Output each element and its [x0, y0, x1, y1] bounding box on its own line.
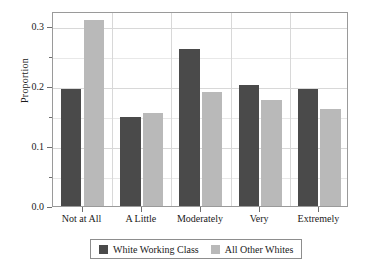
x-axis-tick-mark: [318, 207, 319, 212]
legend-label: All Other Whites: [225, 244, 294, 255]
x-axis-tick-mark: [259, 207, 260, 212]
bar-group: [231, 13, 290, 206]
y-axis-tick-label: 0.0: [4, 202, 44, 212]
y-axis-title: Proportion: [19, 21, 30, 141]
legend-entry: White Working Class: [99, 244, 199, 255]
x-axis-tick-mark: [141, 207, 142, 212]
legend-swatch-icon: [99, 245, 108, 254]
bar: [143, 113, 163, 206]
bar: [202, 92, 222, 206]
legend-label: White Working Class: [113, 244, 199, 255]
bar-group: [112, 13, 171, 206]
bar: [298, 89, 318, 206]
bar: [179, 49, 199, 206]
legend-swatch-icon: [211, 245, 220, 254]
y-axis-tick-label: 0.3: [4, 22, 44, 32]
bar: [261, 100, 281, 206]
x-axis-tick-mark: [82, 207, 83, 212]
bar-group: [290, 13, 349, 206]
plot-inner: [53, 13, 347, 206]
bar-group: [171, 13, 230, 206]
chart-legend: White Working ClassAll Other Whites: [90, 239, 302, 259]
bar: [120, 117, 140, 206]
y-axis-tick-label: 0.1: [4, 142, 44, 152]
legend-entry: All Other Whites: [211, 244, 294, 255]
x-axis-tick-mark: [200, 207, 201, 212]
bar-chart-figure: Proportion 0.00.10.20.3 Not at AllA Litt…: [0, 0, 372, 275]
bar: [239, 85, 259, 206]
bar: [84, 20, 104, 206]
plot-area: [52, 12, 348, 207]
bar: [320, 109, 340, 206]
x-axis-tick-label: Extremely: [273, 213, 363, 224]
bar: [61, 89, 81, 206]
y-axis-tick-label: 0.2: [4, 82, 44, 92]
y-axis-tick-mark: [47, 207, 52, 208]
bar-group: [53, 13, 112, 206]
